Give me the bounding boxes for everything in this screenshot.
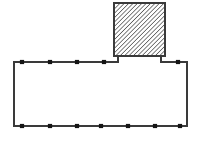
tick-mark — [20, 60, 24, 64]
tick-mark — [75, 124, 79, 128]
tick-mark — [178, 124, 182, 128]
hatched-square-group — [114, 3, 165, 56]
tick-mark — [48, 60, 52, 64]
tick-mark — [176, 60, 180, 64]
tick-mark — [99, 124, 103, 128]
tick-mark — [126, 124, 130, 128]
tick-mark — [75, 60, 79, 64]
diagram-canvas — [0, 0, 201, 146]
hatched-square-fill — [114, 3, 165, 56]
tick-mark — [20, 124, 24, 128]
floor-plan-drawing — [0, 0, 201, 146]
tick-mark — [48, 124, 52, 128]
tick-mark — [153, 124, 157, 128]
tick-mark — [102, 60, 106, 64]
